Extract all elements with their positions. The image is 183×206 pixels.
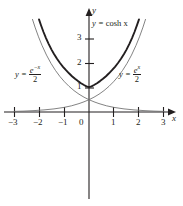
label-cosh-rhs: cosh x: [106, 18, 128, 28]
x-tick-label-3: 3: [161, 118, 166, 127]
label-exp-positive-fraction: ex 2: [133, 66, 141, 85]
x-tick-label--1: −1: [58, 118, 68, 127]
label-exp-negative-denominator: 2: [29, 74, 42, 84]
y-axis: [85, 8, 94, 199]
x-axis-label: x: [172, 114, 176, 123]
label-exp-positive: y = ex 2: [119, 66, 141, 85]
x-tick-label--2: −2: [33, 118, 43, 127]
y-tick-label-2: 2: [77, 58, 82, 67]
y-tick-label-1: 1: [77, 82, 82, 91]
label-exp-negative-exponent: −x: [34, 64, 41, 70]
label-exp-negative: y = e−x 2: [15, 66, 41, 85]
curve-exp-negative: [33, 19, 165, 111]
y-tick-label-3: 3: [77, 33, 82, 42]
x-tick-label--3: −3: [8, 118, 18, 127]
x-tick-label-2: 2: [136, 118, 141, 127]
label-exp-negative-lhs: y =: [15, 69, 27, 79]
label-exp-positive-numerator: ex: [133, 66, 141, 75]
plot-canvas: [0, 0, 183, 206]
label-cosh-lhs: y =: [92, 18, 104, 28]
label-cosh: y = cosh x: [92, 19, 128, 28]
x-tick-label-1: 1: [111, 118, 116, 127]
label-exp-negative-numerator: e−x: [29, 66, 42, 75]
label-exp-positive-denominator: 2: [133, 74, 141, 84]
label-exp-negative-fraction: e−x 2: [29, 66, 42, 85]
cosh-graph-figure: −3 −2 −1 0 1 2 3 1 2 3 x y y = cosh x y …: [0, 0, 183, 206]
x-tick-label-0: 0: [79, 118, 84, 127]
x-axis: [4, 107, 176, 117]
y-axis-label: y: [92, 6, 96, 15]
label-exp-positive-exponent: x: [138, 64, 141, 70]
label-exp-positive-lhs: y =: [119, 69, 131, 79]
